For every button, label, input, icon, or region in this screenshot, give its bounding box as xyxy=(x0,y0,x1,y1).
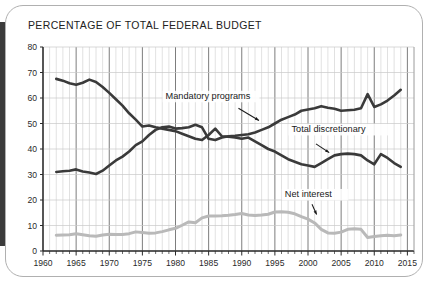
y-axis-tick-label: 10 xyxy=(27,221,37,231)
screenshot-root: PERCENTAGE OF TOTAL FEDERAL BUDGET 01020… xyxy=(0,0,434,288)
svg-text:Total discretionary: Total discretionary xyxy=(291,124,365,134)
x-axis-tick-label: 1970 xyxy=(100,258,119,268)
x-axis-tick-label: 2000 xyxy=(298,258,317,268)
y-axis-tick-label: 50 xyxy=(27,119,37,129)
x-axis-tick-label: 2005 xyxy=(332,258,351,268)
x-axis-tick-label: 1985 xyxy=(199,258,218,268)
x-axis-tick-label: 1995 xyxy=(265,258,284,268)
x-axis-tick-label: 2015 xyxy=(398,258,417,268)
y-axis-tick-label: 40 xyxy=(27,144,37,154)
y-axis-tick-label: 20 xyxy=(27,195,37,205)
svg-text:Mandatory programs: Mandatory programs xyxy=(166,91,251,101)
x-axis-tick-label: 1975 xyxy=(133,258,152,268)
svg-text:Net interest: Net interest xyxy=(285,189,332,199)
y-axis-tick-label: 70 xyxy=(27,68,37,78)
y-axis-tick-label: 0 xyxy=(32,246,37,256)
x-axis-tick-label: 1990 xyxy=(232,258,251,268)
x-axis-tick-label: 2010 xyxy=(365,258,384,268)
x-axis-tick-label: 1965 xyxy=(67,258,86,268)
x-axis-tick-label: 1980 xyxy=(166,258,185,268)
y-axis-tick-label: 30 xyxy=(27,170,37,180)
y-axis-tick-label: 60 xyxy=(27,93,37,103)
y-axis-tick-label: 80 xyxy=(27,42,37,52)
chart-svg: 0102030405060708019601965197019751980198… xyxy=(0,0,434,288)
line-chart: 0102030405060708019601965197019751980198… xyxy=(0,0,434,288)
x-axis-tick-label: 1960 xyxy=(33,258,52,268)
